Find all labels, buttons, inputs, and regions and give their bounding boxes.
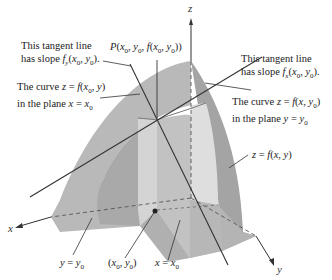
label-tangent-fy-line2: has slope fy(x0, y0).: [21, 53, 100, 64]
label-curve-y0: The curve z = f(x, y0) in the plane y = …: [232, 96, 320, 129]
z-axis-arrow-icon: [189, 18, 193, 25]
label-plane-x: x = x0: [155, 257, 179, 274]
label-tangent-fy: This tangent line has slope fy(x0, y0).: [21, 40, 100, 69]
label-curve-x0-line2: in the plane x = x0: [17, 98, 93, 109]
label-surface: z = f(x, y): [252, 149, 292, 162]
y-axis-label: y: [277, 263, 282, 275]
label-curve-x0: The curve z = f(x0, y) in the plane x = …: [17, 81, 105, 114]
label-tangent-fx-line2: has slope fx(x0, y0).: [241, 66, 320, 77]
z-axis-label: z: [188, 2, 192, 14]
x-axis-solid: [20, 217, 51, 226]
label-base-point: (x0, y0): [108, 257, 137, 274]
x-axis-label: x: [8, 222, 13, 234]
x-axis-arrow-icon: [15, 223, 23, 228]
label-curve-y0-line1: The curve z = f(x, y0): [232, 96, 320, 107]
label-point-P: P(x0, y0, f(x0, y0)): [110, 41, 182, 58]
label-curve-x0-line1: The curve z = f(x0, y): [17, 81, 105, 92]
label-plane-y: y = y0: [60, 257, 84, 274]
y-axis-solid: [256, 236, 272, 262]
leader-curve-y0: [205, 83, 251, 90]
label-tangent-fy-line1: This tangent line: [21, 40, 92, 51]
label-tangent-fx: This tangent line has slope fx(x0, y0).: [241, 53, 320, 82]
leader-tangent-fy: [103, 61, 131, 66]
label-tangent-fx-line1: This tangent line: [241, 53, 312, 64]
label-curve-y0-line2: in the plane y = y0: [232, 113, 308, 124]
base-point-marker: [153, 209, 158, 214]
